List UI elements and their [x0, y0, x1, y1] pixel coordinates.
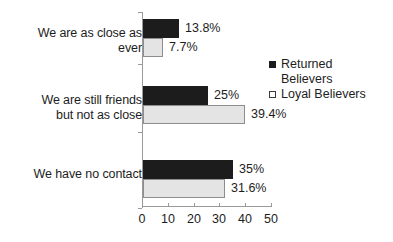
- value-axis-tick-5: [271, 203, 272, 207]
- bar-value-label-1-series-0: 25%: [214, 86, 239, 105]
- category-axis-tick-0: [138, 12, 142, 13]
- legend-label-returned-believers-line-1: Returned: [281, 57, 332, 71]
- category-label-2: We have no contact: [4, 167, 142, 182]
- legend-swatch-loyal-believers-icon: [269, 91, 276, 98]
- value-axis-tick-label-1: 10: [157, 212, 179, 227]
- value-axis: 01020304050: [142, 206, 272, 242]
- legend-label-loyal-believers: Loyal Believers: [281, 87, 366, 101]
- legend-label-returned-believers-line-2: Believers: [281, 72, 332, 86]
- value-axis-tick-3: [219, 203, 220, 207]
- value-axis-tick-label-2: 20: [183, 212, 205, 227]
- bar-1-series-0: [143, 86, 208, 105]
- bar-0-series-1: [143, 38, 163, 57]
- bar-0-series-0: [143, 19, 179, 38]
- value-axis-tick-label-4: 40: [234, 212, 256, 227]
- category-label-0: We are as close as ever: [4, 26, 142, 56]
- category-label-0-line-1: We are as close as: [4, 26, 142, 41]
- bar-value-label-2-series-0: 35%: [239, 160, 264, 179]
- category-label-1-line-2: but not as close: [4, 108, 142, 123]
- category-label-1: We are still friends but not as close: [4, 93, 142, 123]
- value-axis-tick-0: [142, 203, 143, 207]
- plot-area: 13.8%7.7%25%39.4%35%31.6%: [142, 12, 271, 208]
- value-axis-line-horizontal: [142, 206, 271, 207]
- legend-item-loyal-believers: Loyal Believers: [269, 87, 393, 102]
- category-axis-tick-2: [138, 132, 142, 133]
- legend-item-returned-believers-line-2: Believers: [269, 72, 393, 87]
- bar-value-label-1-series-1: 39.4%: [251, 105, 286, 124]
- bar-value-label-2-series-1: 31.6%: [231, 179, 266, 198]
- bar-2-series-0: [143, 160, 233, 179]
- bar-2-series-1: [143, 179, 225, 198]
- value-axis-tick-1: [168, 203, 169, 207]
- value-axis-tick-2: [194, 203, 195, 207]
- value-axis-tick-4: [245, 203, 246, 207]
- legend-swatch-returned-believers-icon: [269, 61, 276, 68]
- value-axis-tick-label-0: 0: [131, 212, 153, 227]
- legend-item-returned-believers: Returned: [269, 57, 393, 72]
- value-axis-tick-label-5: 50: [260, 212, 282, 227]
- legend: Returned Believers Loyal Believers: [269, 57, 393, 102]
- category-axis-tick-1: [138, 64, 142, 65]
- bar-1-series-1: [143, 105, 245, 124]
- category-label-2-line-1: We have no contact: [4, 167, 142, 182]
- bar-value-label-0-series-0: 13.8%: [185, 19, 220, 38]
- category-label-0-line-2: ever: [4, 41, 142, 56]
- value-axis-tick-label-3: 30: [208, 212, 230, 227]
- category-label-1-line-1: We are still friends: [4, 93, 142, 108]
- bar-value-label-0-series-1: 7.7%: [169, 38, 198, 57]
- bar-chart: We are as close as ever We are still fri…: [0, 0, 393, 242]
